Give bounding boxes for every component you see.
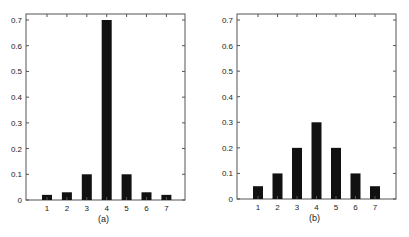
y-tick-label: 0.6 [11, 42, 23, 51]
y-tick-label: 0.7 [222, 16, 234, 25]
figure: 00.10.20.30.40.50.60.71234567(a)00.10.20… [0, 0, 409, 237]
y-tick-label: 0.2 [11, 145, 23, 154]
y-tick-label: 0.3 [222, 118, 234, 127]
bar [82, 174, 92, 200]
chart-panel-b: 00.10.20.30.40.50.60.71234567(b) [222, 14, 396, 223]
bar [102, 20, 112, 200]
panel-caption: (b) [309, 213, 320, 223]
x-tick-label: 7 [164, 204, 169, 213]
bar [273, 173, 283, 199]
y-tick-label: 0.3 [11, 119, 23, 128]
y-tick-label: 0 [229, 195, 234, 204]
y-tick-label: 0.7 [11, 16, 23, 25]
y-tick-label: 0.5 [222, 67, 234, 76]
bar [351, 173, 361, 199]
x-tick-label: 6 [144, 204, 149, 213]
x-tick-label: 7 [373, 203, 378, 212]
x-tick-label: 4 [104, 204, 109, 213]
bar [292, 148, 302, 199]
bar [312, 122, 322, 199]
y-tick-label: 0.1 [222, 169, 234, 178]
y-tick-label: 0.5 [11, 67, 23, 76]
y-tick-label: 0.4 [11, 93, 23, 102]
y-tick-label: 0.4 [222, 93, 234, 102]
y-tick-label: 0.1 [11, 170, 23, 179]
x-tick-label: 3 [85, 204, 90, 213]
chart-panel-a: 00.10.20.30.40.50.60.71234567(a) [11, 14, 185, 224]
y-tick-label: 0.6 [222, 42, 234, 51]
x-tick-label: 6 [353, 203, 358, 212]
bar [331, 148, 341, 199]
x-tick-label: 5 [124, 204, 129, 213]
x-tick-label: 1 [45, 204, 50, 213]
x-tick-label: 2 [275, 203, 280, 212]
x-tick-label: 5 [334, 203, 339, 212]
y-tick-label: 0.2 [222, 144, 234, 153]
x-tick-label: 1 [256, 203, 261, 212]
x-tick-label: 4 [314, 203, 319, 212]
panel-caption: (a) [98, 214, 109, 224]
x-tick-label: 3 [295, 203, 300, 212]
bar [122, 174, 132, 200]
x-tick-label: 2 [65, 204, 70, 213]
y-tick-label: 0 [18, 196, 23, 205]
